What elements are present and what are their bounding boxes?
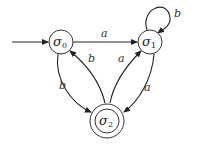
edge-label-s2-s1: a — [118, 52, 125, 65]
state-s2: σ2 — [90, 104, 124, 138]
edge-label-s1-s2: a — [144, 81, 151, 94]
state-s0: σ0 — [49, 30, 73, 54]
diagram-svg: a b b b a a σ0 σ1 σ2 — [0, 0, 198, 149]
edge-label-s0-s2: b — [59, 79, 66, 92]
edge-s2-s1 — [110, 51, 141, 103]
fsa-diagram: a b b b a a σ0 σ1 σ2 — [0, 0, 198, 149]
state-s1: σ1 — [138, 30, 162, 54]
edge-label-s1-loop: b — [174, 7, 181, 20]
edge-label-s0-s1: a — [101, 27, 108, 40]
edge-s1-loop — [146, 7, 170, 33]
edge-label-s2-s0: b — [88, 52, 95, 65]
